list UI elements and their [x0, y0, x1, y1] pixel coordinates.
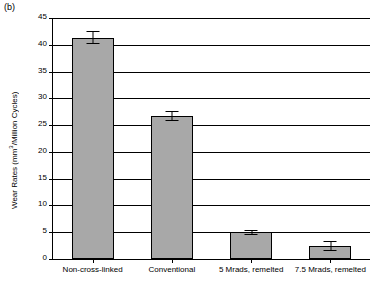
bar-group: 5 Mrads, remelted	[230, 18, 272, 259]
x-tick-label: Conventional	[149, 265, 196, 274]
x-tick-mark	[172, 259, 173, 263]
x-tick-label: 7.5 Mrads, remelted	[295, 265, 366, 274]
error-bar-cap-bottom	[245, 234, 258, 235]
y-tick-label: 5	[25, 226, 47, 235]
bar[interactable]	[151, 116, 193, 259]
error-bar-cap-top	[245, 230, 258, 231]
y-tick-label: 40	[25, 39, 47, 48]
y-tick-label: 35	[25, 66, 47, 75]
y-tick-label: 25	[25, 119, 47, 128]
error-bar-cap-bottom	[324, 250, 337, 251]
y-tick-mark	[49, 259, 53, 260]
y-tick-label: 45	[25, 12, 47, 21]
bar-group: 7.5 Mrads, remelted	[309, 18, 351, 259]
plot-area: 051015202530354045Non-cross-linkedConven…	[52, 18, 370, 260]
error-bar	[165, 111, 178, 122]
bar-group: Conventional	[151, 18, 193, 259]
y-tick-label: 0	[25, 253, 47, 262]
x-tick-mark	[251, 259, 252, 263]
x-tick-label: 5 Mrads, remelted	[219, 265, 283, 274]
bar[interactable]	[72, 38, 114, 259]
error-bar-cap-bottom	[86, 43, 99, 44]
error-bar	[86, 31, 99, 44]
y-tick-label: 10	[25, 199, 47, 208]
y-axis-label: Wear Rates (mm3/Million Cycles)	[6, 60, 18, 240]
error-bar-cap-bottom	[165, 120, 178, 121]
y-tick-label: 15	[25, 173, 47, 182]
error-bar	[245, 230, 258, 235]
bar[interactable]	[230, 232, 272, 259]
x-tick-mark	[93, 259, 94, 263]
bar-group: Non-cross-linked	[72, 18, 114, 259]
y-axis-label-base: Wear Rates (mm	[10, 148, 19, 208]
error-bar-cap-top	[86, 31, 99, 32]
y-axis-label-rest: /Million Cycles)	[10, 91, 19, 145]
y-tick-label: 20	[25, 146, 47, 155]
error-bar-cap-top	[324, 241, 337, 242]
x-tick-label: Non-cross-linked	[63, 265, 123, 274]
x-tick-mark	[330, 259, 331, 263]
y-tick-label: 30	[25, 92, 47, 101]
figure: (b) Wear Rates (mm3/Million Cycles) 0510…	[0, 0, 381, 286]
y-axis-label-superscript: 3	[8, 145, 14, 148]
error-bar	[324, 241, 337, 251]
error-bar-cap-top	[165, 111, 178, 112]
panel-label: (b)	[4, 2, 15, 12]
